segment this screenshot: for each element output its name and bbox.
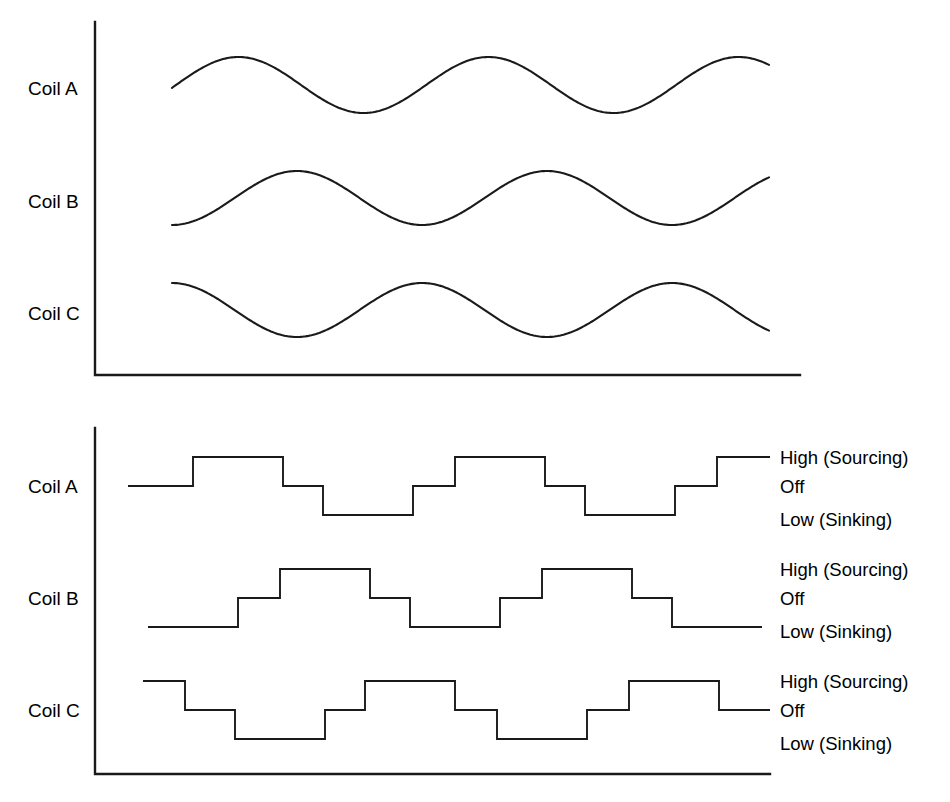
- bottom-chart-row-label-coil-a: Coil A: [28, 476, 78, 497]
- bottom-chart-axes: [95, 428, 770, 774]
- sine-wave-coil-a: [172, 57, 769, 113]
- square-wave-coil-c: [143, 681, 770, 739]
- top-chart-row-label-coil-a: Coil A: [28, 78, 78, 99]
- figure-root: Coil A Coil B Coil C Coil A Coil B Coil …: [0, 0, 950, 802]
- top-chart-row-label-coil-b: Coil B: [28, 191, 79, 212]
- level-label-high-coil-c: High (Sourcing): [780, 671, 909, 692]
- top-chart-axes: [95, 22, 800, 375]
- level-label-high-coil-b: High (Sourcing): [780, 559, 909, 580]
- sine-wave-coil-c: [172, 283, 769, 337]
- level-label-off-coil-b: Off: [780, 588, 805, 609]
- level-label-low-coil-a: Low (Sinking): [780, 509, 892, 530]
- square-wave-coil-a: [128, 457, 770, 515]
- level-label-off-coil-c: Off: [780, 700, 805, 721]
- bottom-chart-row-label-coil-c: Coil C: [28, 700, 80, 721]
- top-chart-row-label-coil-c: Coil C: [28, 303, 80, 324]
- bottom-chart: Coil A Coil B Coil C High (Sourcing) Off…: [28, 428, 909, 774]
- bottom-chart-row-label-coil-b: Coil B: [28, 588, 79, 609]
- top-chart: Coil A Coil B Coil C: [28, 22, 800, 375]
- level-label-off-coil-a: Off: [780, 476, 805, 497]
- waveform-diagram: Coil A Coil B Coil C Coil A Coil B Coil …: [0, 0, 950, 802]
- square-wave-coil-b: [148, 569, 762, 627]
- level-label-low-coil-c: Low (Sinking): [780, 733, 892, 754]
- level-label-low-coil-b: Low (Sinking): [780, 621, 892, 642]
- level-label-high-coil-a: High (Sourcing): [780, 447, 909, 468]
- sine-wave-coil-b: [172, 171, 769, 225]
